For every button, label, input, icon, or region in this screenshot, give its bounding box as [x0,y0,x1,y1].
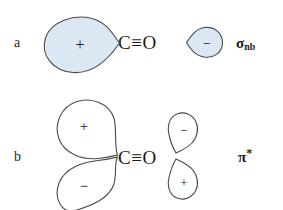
lobe-b-left-upper-sign: + [80,118,88,134]
lobe-b-right-upper-sign: − [180,123,187,138]
lobe-b-left-lower-sign: − [80,178,88,194]
lobe-a-left-sign: + [75,36,84,53]
orbital-diagram-figure: a C≡O σnb b C≡O π* + − + − − + [0,0,283,210]
lobe-a-right-sign: − [203,36,211,51]
lobe-b-right-lower-sign: + [180,175,187,190]
orbital-lobes-group: + − + − − + [0,0,283,210]
